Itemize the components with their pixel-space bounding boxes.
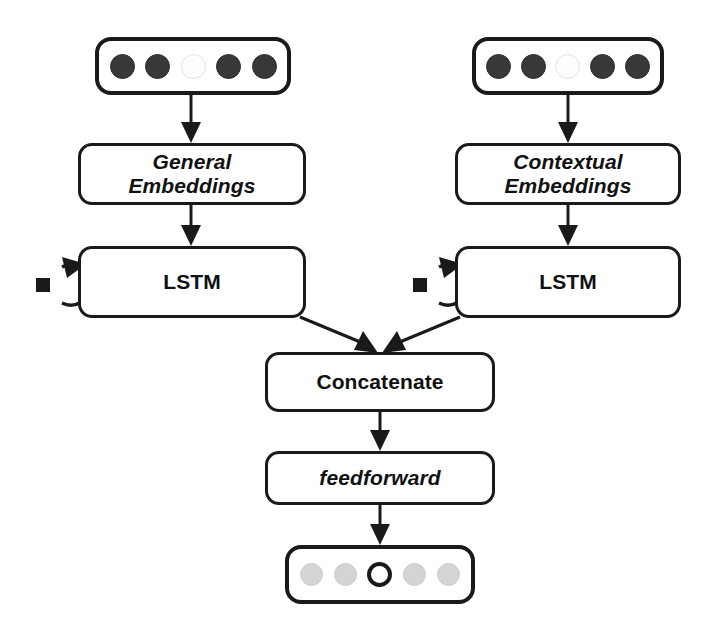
feedforward-label: feedforward: [313, 466, 446, 490]
right-input-vector-node: [472, 37, 664, 95]
vector-dot: [145, 54, 170, 79]
general-embeddings-label: General Embeddings: [122, 150, 261, 197]
general-embeddings-node: General Embeddings: [78, 143, 306, 205]
vector-dot: [521, 54, 546, 79]
vector-dot: [625, 54, 650, 79]
output-dot: [403, 563, 426, 586]
left-input-vector-node: [95, 37, 291, 95]
left-lstm-label: LSTM: [157, 270, 227, 294]
edge-right-lstm-to-concatenate: [382, 317, 460, 353]
edge-general-embeddings-to-left-lstm: [181, 205, 201, 246]
edge-left-lstm-to-concatenate: [300, 317, 378, 353]
output-vector-node: [285, 545, 475, 604]
vector-dot: [181, 54, 206, 79]
feedforward-node: feedforward: [265, 451, 495, 505]
edge-feedforward-to-output: [370, 505, 390, 545]
edge-right-input-to-contextual-embeddings: [558, 95, 578, 143]
concatenate-node: Concatenate: [265, 352, 495, 412]
right-lstm-node: LSTM: [455, 246, 681, 318]
vector-dot: [216, 54, 241, 79]
left-lstm-node: LSTM: [78, 246, 306, 318]
output-dot: [437, 563, 460, 586]
right-lstm-label: LSTM: [533, 270, 603, 294]
vector-dot: [110, 54, 135, 79]
contextual-embeddings-node: Contextual Embeddings: [455, 143, 681, 205]
architecture-diagram: General Embeddings Contextual Embeddings…: [0, 0, 710, 641]
edge-left-input-to-general-embeddings: [181, 95, 201, 143]
vector-dot: [486, 54, 511, 79]
output-dot: [334, 563, 357, 586]
edge-contextual-embeddings-to-right-lstm: [558, 205, 578, 246]
output-dot: [300, 563, 323, 586]
concatenate-label: Concatenate: [310, 370, 449, 394]
vector-dot: [252, 54, 277, 79]
edge-concatenate-to-feedforward: [370, 412, 390, 451]
contextual-embeddings-label: Contextual Embeddings: [498, 150, 637, 197]
vector-dot: [555, 54, 580, 79]
output-dot-selected: [367, 562, 392, 587]
vector-dot: [590, 54, 615, 79]
